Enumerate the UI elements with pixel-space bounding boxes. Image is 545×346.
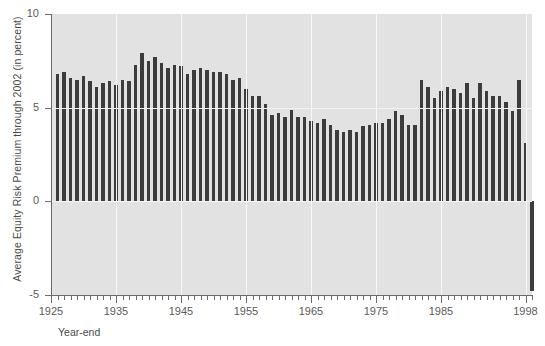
x-axis-minor-tick (136, 296, 137, 300)
y-axis-tick (45, 201, 51, 202)
x-axis-minor-tick (435, 296, 436, 300)
x-axis-minor-tick (370, 296, 371, 300)
x-axis-minor-tick (480, 296, 481, 300)
bar (335, 130, 339, 201)
x-axis-title: Year-end (58, 326, 100, 338)
x-axis-minor-tick (259, 296, 260, 300)
vertical-gridline (116, 14, 117, 295)
x-axis-major-tick (526, 296, 527, 303)
bar (387, 119, 391, 201)
x-axis-minor-tick (448, 296, 449, 300)
bar (251, 96, 255, 201)
bar (498, 96, 502, 201)
y-axis-tick-label: -5 (9, 288, 39, 300)
x-axis-minor-tick (487, 296, 488, 300)
bar (517, 80, 521, 202)
bar (173, 65, 177, 202)
x-axis-minor-tick (214, 296, 215, 300)
x-axis-minor-tick (155, 296, 156, 300)
x-axis-minor-tick (428, 296, 429, 300)
bar (381, 123, 385, 202)
x-axis-minor-tick (84, 296, 85, 300)
x-axis-minor-tick (305, 296, 306, 300)
bar (277, 113, 281, 201)
bar (147, 61, 151, 202)
x-axis-minor-tick (532, 296, 533, 300)
x-axis-minor-tick (77, 296, 78, 300)
x-axis-minor-tick (110, 296, 111, 300)
x-axis-minor-tick (402, 296, 403, 300)
x-axis-minor-tick (272, 296, 273, 300)
bar (140, 53, 144, 201)
x-axis-minor-tick (513, 296, 514, 300)
x-axis-tick-label: 1925 (29, 305, 73, 317)
x-axis-tick-label: 1975 (354, 305, 398, 317)
bar (82, 76, 86, 202)
bar (348, 130, 352, 201)
bar (407, 125, 411, 202)
vertical-gridline (441, 14, 442, 295)
bar (218, 72, 222, 201)
x-axis-minor-tick (279, 296, 280, 300)
x-axis-minor-tick (415, 296, 416, 300)
x-axis-tick-label: 1998 (504, 305, 545, 317)
bar (108, 81, 112, 201)
x-axis-minor-tick (389, 296, 390, 300)
vertical-gridline (376, 14, 377, 295)
vertical-gridline (246, 14, 247, 295)
x-axis-minor-tick (493, 296, 494, 300)
bar (478, 83, 482, 201)
chart-figure: Average Equity Risk Premium through 2002… (0, 0, 545, 346)
bar (134, 65, 138, 202)
x-axis-minor-tick (467, 296, 468, 300)
y-axis-tick (45, 14, 51, 15)
x-axis-minor-tick (240, 296, 241, 300)
bar (225, 74, 229, 201)
bar (459, 93, 463, 202)
bar (257, 96, 261, 201)
x-axis-minor-tick (409, 296, 410, 300)
bar (342, 132, 346, 201)
x-axis-minor-tick (298, 296, 299, 300)
x-axis-minor-tick (350, 296, 351, 300)
bar (186, 74, 190, 201)
bar (368, 125, 372, 202)
x-axis-minor-tick (253, 296, 254, 300)
bar-series (51, 14, 532, 295)
x-axis-minor-tick (71, 296, 72, 300)
bar (400, 115, 404, 201)
bar (153, 57, 157, 201)
bar (322, 119, 326, 201)
x-axis-minor-tick (90, 296, 91, 300)
x-axis-minor-tick (58, 296, 59, 300)
x-axis-major-tick (311, 296, 312, 303)
bar (290, 110, 294, 202)
x-axis-minor-tick (292, 296, 293, 300)
bar (56, 74, 60, 201)
bar (205, 70, 209, 201)
bar (465, 83, 469, 201)
bar (504, 102, 508, 201)
bar (95, 87, 99, 201)
vertical-gridline (311, 14, 312, 295)
vertical-gridline (526, 14, 527, 295)
x-axis-tick-label: 1955 (224, 305, 268, 317)
bar-negative (530, 201, 534, 291)
x-axis-major-tick (51, 296, 52, 303)
x-axis-minor-tick (506, 296, 507, 300)
bar (160, 63, 164, 202)
x-axis-minor-tick (461, 296, 462, 300)
bar (413, 125, 417, 202)
x-axis-tick-label: 1945 (159, 305, 203, 317)
x-axis-minor-tick (97, 296, 98, 300)
bar (69, 78, 73, 202)
x-axis-minor-tick (123, 296, 124, 300)
bar (296, 117, 300, 201)
bar (511, 111, 515, 201)
y-axis-tick-label: 5 (9, 101, 39, 113)
bar (316, 123, 320, 202)
x-axis-minor-tick (454, 296, 455, 300)
x-axis-minor-tick (331, 296, 332, 300)
bar (329, 125, 333, 202)
bar (238, 78, 242, 202)
